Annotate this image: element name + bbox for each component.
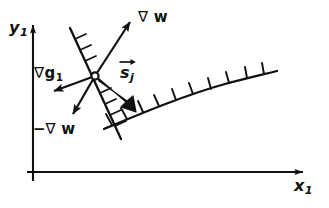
grad-w-label-text: w	[154, 8, 168, 26]
nabla-icon: ∇	[34, 64, 45, 82]
x-axis-label: x1	[294, 178, 313, 194]
neg-grad-w-label-text: w	[61, 120, 75, 138]
grad-g1-label: ∇g1	[34, 66, 63, 81]
minus-sign-icon: −	[33, 120, 46, 138]
y-axis-label-text: y	[9, 18, 19, 37]
diagram-canvas	[0, 0, 329, 208]
s-j-label-text: s	[120, 63, 130, 82]
grad-g1-label-text: g	[45, 64, 56, 82]
y-axis-label-subscript: 1	[20, 26, 28, 39]
intersection-node	[91, 72, 98, 79]
vector-overbar-arrow-icon	[119, 58, 136, 65]
grad-g1-label-subscript: 1	[56, 71, 63, 83]
nabla-icon: ∇	[138, 8, 149, 26]
s-j-label: sj	[120, 65, 134, 81]
s-j-label-subscript: j	[130, 71, 134, 84]
grad-w-label: ∇ w	[138, 10, 168, 25]
x-axis-label-subscript: 1	[305, 184, 313, 197]
y-axis-label: y1	[9, 20, 28, 36]
x-axis-label-text: x	[294, 176, 304, 195]
neg-grad-w-label: −∇ w	[33, 122, 75, 137]
figure-root: y1 x1 ∇ w −∇ w ∇g1 sj	[0, 0, 329, 208]
nabla-icon: ∇	[46, 120, 57, 138]
